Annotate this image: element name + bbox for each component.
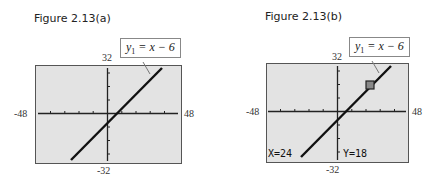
trace-cursor-icon: [366, 81, 374, 89]
trace-readout-x: X=24: [268, 148, 292, 159]
trace-readout-y: Y=18: [343, 148, 367, 159]
figure-b: Figure 2.13(b) 32 -32 -48 48 y1 = x − 6 …: [0, 0, 437, 189]
eq-rest: = x − 6: [364, 39, 404, 53]
figure-b-equation-label: y1 = x − 6: [349, 37, 410, 57]
figure-b-plot: [0, 0, 437, 189]
